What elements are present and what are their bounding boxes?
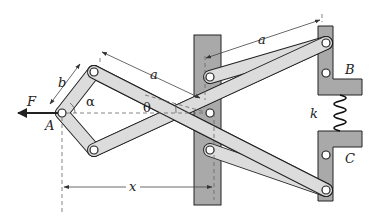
label-b-dim: b <box>58 75 66 90</box>
pin-right-3 <box>322 151 330 159</box>
label-c-point: C <box>345 151 355 166</box>
pin-right-2 <box>322 69 330 77</box>
spring-k <box>334 95 346 131</box>
label-k: k <box>310 106 318 121</box>
pin-lower-left <box>90 146 98 154</box>
label-f: F <box>26 94 37 109</box>
label-x: x <box>129 179 137 194</box>
pin-center <box>206 109 214 117</box>
label-b-point: B <box>344 62 355 77</box>
label-alpha: α <box>86 94 95 109</box>
label-theta: θ <box>143 100 151 115</box>
pin-upper-left <box>90 68 98 76</box>
pin-right-1 <box>322 39 330 47</box>
pin-post-lower <box>206 146 214 154</box>
pin-a <box>58 109 66 117</box>
label-a-link: a <box>150 67 158 82</box>
label-a-top: a <box>258 32 266 47</box>
pin-post-upper <box>206 73 214 81</box>
label-a-point: A <box>44 118 54 133</box>
scissor-mechanism-diagram: F A b α θ a a B k C x <box>0 0 380 223</box>
pin-right-4 <box>322 186 330 194</box>
